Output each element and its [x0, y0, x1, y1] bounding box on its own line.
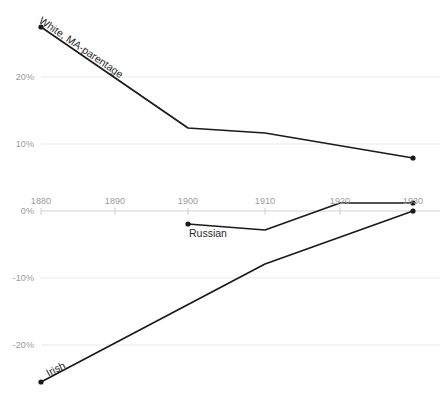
x-axis-tick-label-1910: 1910 — [245, 196, 285, 206]
series-white-ma-parentage — [38, 24, 415, 160]
x-axis-tick-label-1890: 1890 — [95, 196, 135, 206]
series-irish — [38, 208, 415, 384]
series-russian — [185, 200, 415, 230]
y-axis-tick-label-20: 20% — [0, 72, 34, 82]
series-point-white-1930 — [410, 155, 415, 160]
series-line-russian — [188, 203, 413, 230]
y-axis-tick-label-minus-10: -10% — [0, 273, 34, 283]
y-axis-tick-label-10: 10% — [0, 139, 34, 149]
line-chart: 20% 10% 0% -10% -20% 1880 1890 1900 1910… — [0, 0, 447, 404]
series-line-irish — [41, 211, 413, 382]
series-point-irish-1930 — [410, 208, 415, 213]
y-axis-tick-label-0: 0% — [0, 206, 34, 216]
chart-canvas — [0, 0, 447, 404]
series-label-russian: Russian — [189, 227, 227, 239]
x-axis-tick-label-1920: 1920 — [320, 196, 360, 206]
y-axis-tick-label-minus-20: -20% — [0, 340, 34, 350]
x-axis-tick-label-1900: 1900 — [168, 196, 208, 206]
series-line-white — [41, 27, 413, 158]
x-axis-tick-label-1930: 1930 — [393, 196, 433, 206]
series-point-russian-1900 — [185, 221, 190, 226]
gridlines — [41, 77, 440, 345]
series-point-irish-1880 — [38, 379, 43, 384]
x-axis-tick-label-1880: 1880 — [21, 196, 61, 206]
